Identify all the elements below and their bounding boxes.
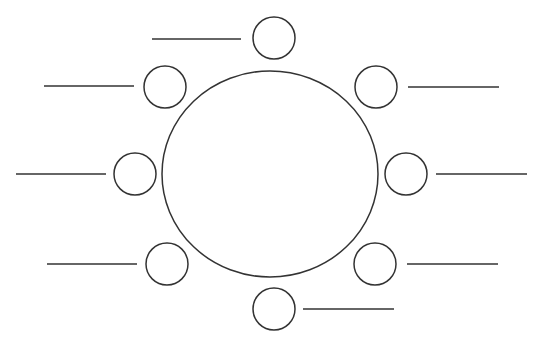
node-circle bbox=[253, 17, 295, 59]
node-bottom bbox=[253, 288, 394, 330]
node-circle bbox=[355, 66, 397, 108]
node-left bbox=[16, 153, 156, 195]
node-circle bbox=[385, 153, 427, 195]
node-bottom-right bbox=[354, 243, 498, 285]
node-bottom-left bbox=[47, 243, 188, 285]
node-circle bbox=[114, 153, 156, 195]
node-circle bbox=[146, 243, 188, 285]
node-top bbox=[152, 17, 295, 59]
node-right bbox=[385, 153, 527, 195]
satellite-nodes bbox=[16, 17, 527, 330]
node-circle bbox=[354, 243, 396, 285]
center-circle bbox=[162, 71, 378, 277]
node-circle bbox=[144, 66, 186, 108]
node-top-left bbox=[44, 66, 186, 108]
node-circle bbox=[253, 288, 295, 330]
node-top-right bbox=[355, 66, 499, 108]
cluster-diagram bbox=[0, 0, 538, 339]
